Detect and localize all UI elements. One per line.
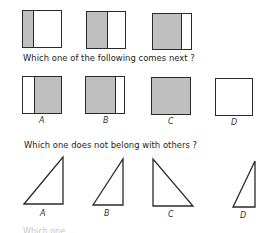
clipped-next-question: Which one ... (23, 227, 75, 233)
triangle-b-label: B (104, 209, 110, 218)
option-c-triangle[interactable] (153, 159, 193, 206)
option-a-triangle[interactable] (24, 157, 63, 204)
question-2-triangles (0, 0, 270, 233)
triangle-d-label: D (240, 211, 246, 220)
triangle-c-label: C (168, 210, 174, 219)
option-b-triangle[interactable] (93, 159, 123, 205)
option-d-triangle[interactable] (233, 161, 255, 207)
triangle-a-label: A (40, 209, 45, 218)
